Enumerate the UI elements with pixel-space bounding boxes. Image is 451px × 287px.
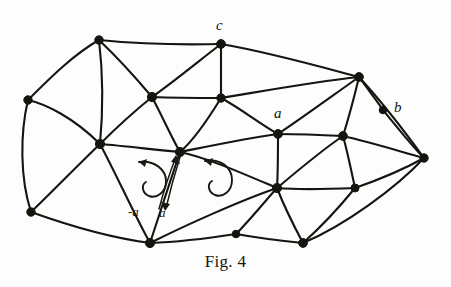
figure-container: c a b -a a Fig. 4 (0, 0, 451, 287)
vertex-label-a: a (274, 106, 282, 121)
vertex-v2[interactable] (24, 96, 32, 104)
vertex-v14[interactable] (351, 184, 359, 192)
edge-label-minus-a: -a (128, 205, 139, 218)
vertex-label-b: b (394, 100, 402, 115)
edge-v17-v18 (236, 234, 303, 243)
vertex-v11[interactable] (95, 139, 104, 148)
triangulated-surface-graph (0, 0, 451, 287)
figure-caption: Fig. 4 (0, 252, 451, 272)
vertex-v13[interactable] (272, 183, 281, 192)
edge-v11-v15 (31, 144, 100, 212)
edge-v3-v4 (152, 44, 221, 97)
edge-v2-v1 (28, 40, 99, 100)
edge-v4-v6 (221, 44, 359, 77)
edge-v5-v12 (180, 98, 221, 152)
vertex-v1[interactable] (95, 36, 103, 44)
edge-group (22, 40, 424, 243)
edge-label-a: a (159, 206, 166, 219)
edge-v3-v12 (152, 97, 180, 152)
edge-v1-v4 (99, 40, 221, 44)
edge-v8-v13 (277, 134, 278, 188)
vertex-label-c: c (216, 18, 223, 33)
edge-v13-v18 (277, 188, 303, 243)
vertex-v16[interactable] (145, 238, 154, 247)
vertex-v15[interactable] (27, 208, 35, 216)
vertex-v18[interactable] (299, 239, 308, 248)
vertex-v6[interactable] (355, 73, 364, 82)
vertex-v9[interactable] (339, 132, 348, 141)
rotation-arrow-left-head (139, 159, 147, 167)
edge-v14-v10 (355, 158, 424, 188)
vertex-a[interactable] (274, 130, 283, 139)
vertex-c[interactable] (217, 40, 226, 49)
edge-v11-v12 (100, 144, 180, 152)
edge-v2-v11 (28, 100, 100, 144)
edge-v1-v11 (99, 40, 102, 144)
vertex-v5[interactable] (217, 94, 225, 102)
vertex-b[interactable] (379, 106, 387, 114)
edge-v11-v16 (100, 144, 150, 243)
edge-v1-v3 (99, 40, 152, 97)
rotation-arrow-left (139, 162, 166, 197)
edge-v3-v5 (152, 97, 221, 98)
rotation-arrow-right (205, 160, 232, 195)
edge-v9-v14 (343, 136, 355, 188)
edge-v5-v8 (221, 98, 278, 134)
vertex-v17[interactable] (232, 230, 240, 238)
edge-v9-v13 (277, 136, 343, 188)
edge-v11-v3 (100, 97, 152, 144)
edge-v9-v10 (343, 136, 424, 158)
vertex-v12[interactable] (175, 147, 184, 156)
edge-v2-v15 (22, 100, 31, 212)
edge-v16-v17 (150, 234, 236, 243)
edge-v8-v9 (278, 134, 343, 136)
edge-v5-v6 (221, 77, 359, 98)
vertex-v3[interactable] (147, 92, 156, 101)
vertex-v10[interactable] (420, 154, 428, 162)
edge-v6-v10 (359, 77, 424, 158)
edge-v13-v14 (277, 188, 355, 189)
edge-v18-v14 (303, 188, 355, 243)
edge-v18-v10 (303, 158, 424, 243)
